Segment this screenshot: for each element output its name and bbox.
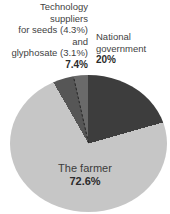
label-line: The farmer — [25, 162, 145, 175]
label-line: glyphosate (3.1%) — [0, 47, 88, 59]
label-national-government: National government 20% — [96, 31, 146, 66]
label-technology-suppliers: Technology suppliers for seeds (4.3%) an… — [0, 1, 88, 70]
label-line: National — [96, 31, 146, 43]
pie-area — [10, 75, 167, 212]
label-line: suppliers — [0, 13, 88, 25]
label-line: government — [96, 43, 146, 55]
label-percentage: 72.6% — [25, 175, 145, 188]
label-the-farmer: The farmer 72.6% — [25, 162, 145, 187]
label-line: and — [0, 36, 88, 48]
dashed-divider-line — [73, 79, 88, 143]
label-percentage: 7.4% — [0, 59, 88, 71]
label-percentage: 20% — [96, 54, 146, 66]
label-line: Technology — [0, 1, 88, 13]
label-line: for seeds (4.3%) — [0, 24, 88, 36]
pie-ellipse — [10, 75, 167, 212]
pie-chart: Technology suppliers for seeds (4.3%) an… — [0, 0, 170, 214]
